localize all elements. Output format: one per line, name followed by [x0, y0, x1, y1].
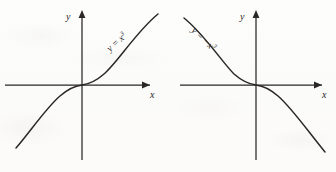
- figure-canvas: y x y = x3 y x: [0, 0, 336, 172]
- right-curve-label: y = −x3: [189, 23, 219, 53]
- left-panel: y x y = x3: [5, 10, 158, 160]
- right-x-axis-label: x: [321, 89, 327, 100]
- left-x-axis: [5, 82, 150, 89]
- right-x-axis: [180, 82, 322, 89]
- right-panel: y x y = −x3: [180, 10, 327, 160]
- right-curve-label-group: y = −x3: [189, 23, 219, 53]
- left-x-axis-label: x: [149, 89, 155, 100]
- left-y-axis-label: y: [65, 11, 71, 22]
- cubic-function-comparison-figure: y x y = x3 y x: [0, 0, 336, 172]
- right-y-axis-label: y: [239, 11, 245, 22]
- left-x-axis-arrowhead-icon: [142, 82, 150, 89]
- left-y-axis-arrowhead-icon: [79, 10, 86, 18]
- left-cubic-curve: [16, 14, 158, 148]
- right-y-axis-arrowhead-icon: [253, 10, 260, 18]
- right-x-axis-arrowhead-icon: [314, 82, 322, 89]
